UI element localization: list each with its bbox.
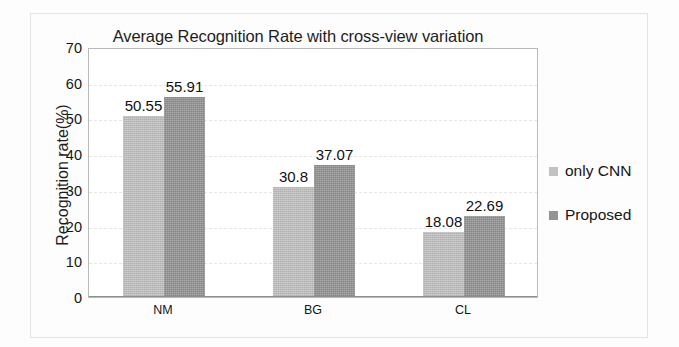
bar-value-label: 55.91 bbox=[166, 79, 204, 94]
bar-texture bbox=[464, 216, 505, 297]
y-axis-tick-label: 10 bbox=[50, 254, 82, 270]
bar-texture bbox=[273, 187, 314, 297]
bar[interactable]: 50.55 bbox=[123, 116, 164, 297]
bar-value-label: 30.8 bbox=[279, 169, 308, 184]
y-axis-tick-label: 60 bbox=[50, 76, 82, 92]
x-axis-tick-label: CL bbox=[455, 303, 471, 317]
y-axis-tick-label: 0 bbox=[50, 290, 82, 306]
chart-figure: Average Recognition Rate with cross-view… bbox=[0, 0, 679, 347]
bar[interactable]: 18.08 bbox=[423, 232, 464, 297]
y-axis-tick-label: 30 bbox=[50, 183, 82, 199]
legend-label: Proposed bbox=[565, 206, 631, 224]
bar-value-label: 22.69 bbox=[466, 198, 504, 213]
chart-legend: only CNNProposed bbox=[549, 162, 659, 250]
bar-texture bbox=[423, 232, 464, 297]
bar-value-label: 18.08 bbox=[425, 214, 463, 229]
bar-group: 30.837.07 bbox=[273, 49, 355, 297]
y-axis-tick-label: 20 bbox=[50, 219, 82, 235]
x-axis-tick-labels: NMBGCL bbox=[88, 303, 538, 329]
x-axis-baseline bbox=[89, 296, 537, 297]
legend-item[interactable]: Proposed bbox=[549, 206, 659, 224]
y-axis-tick-label: 70 bbox=[50, 40, 82, 56]
x-axis-tick-label: NM bbox=[153, 303, 172, 317]
bar-group: 18.0822.69 bbox=[423, 49, 505, 297]
bar-value-label: 37.07 bbox=[316, 147, 354, 162]
plot-area: 50.5555.9130.837.0718.0822.69 bbox=[88, 48, 538, 298]
chart-title: Average Recognition Rate with cross-view… bbox=[88, 27, 508, 46]
y-axis-tick-labels: 010203040506070 bbox=[48, 48, 82, 298]
bar-texture bbox=[123, 116, 164, 297]
legend-swatch-icon bbox=[549, 211, 558, 220]
bar[interactable]: 30.8 bbox=[273, 187, 314, 297]
y-axis-tick-label: 40 bbox=[50, 147, 82, 163]
legend-item[interactable]: only CNN bbox=[549, 162, 659, 180]
legend-label: only CNN bbox=[565, 162, 631, 180]
legend-swatch-icon bbox=[549, 167, 558, 176]
bar-texture bbox=[314, 165, 355, 297]
bar[interactable]: 37.07 bbox=[314, 165, 355, 297]
bar[interactable]: 22.69 bbox=[464, 216, 505, 297]
x-axis-tick-label: BG bbox=[304, 303, 322, 317]
bar-texture bbox=[164, 97, 205, 297]
bar-value-label: 50.55 bbox=[125, 98, 163, 113]
y-axis-tick-label: 50 bbox=[50, 111, 82, 127]
bar[interactable]: 55.91 bbox=[164, 97, 205, 297]
bar-group: 50.5555.91 bbox=[123, 49, 205, 297]
